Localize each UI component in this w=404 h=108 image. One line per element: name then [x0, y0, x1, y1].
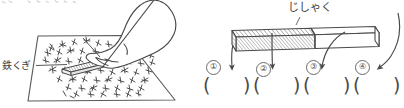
- marker-circle-3: ③: [306, 60, 321, 75]
- label-jishaku: じしゃく: [288, 2, 332, 13]
- answer-blank-1-open[interactable]: (: [203, 76, 210, 95]
- answer-blank-3-open[interactable]: (: [303, 76, 310, 95]
- worksheet-figure: 鉄くぎ じしゃく ① ② ③ ④ ( ) ( ) ( ) ( ): [0, 0, 404, 108]
- hand: [86, 0, 176, 68]
- answer-blank-4-close[interactable]: ): [393, 76, 400, 95]
- pointer-arrow-2: [272, 33, 273, 67]
- clipped-top-text: [2, 0, 76, 2]
- answer-blank-4-open[interactable]: (: [353, 76, 360, 95]
- marker-circle-1: ①: [206, 60, 221, 75]
- answer-blank-2-open[interactable]: (: [253, 76, 260, 95]
- answer-blank-1-close[interactable]: ): [243, 76, 250, 95]
- pointer-arrow-4: [379, 13, 400, 68]
- left-illustration: [28, 0, 176, 101]
- answer-blank-3-close[interactable]: ): [343, 76, 350, 95]
- jishaku-leader-line: [296, 17, 300, 25]
- label-tetsukugi: 鉄くぎ: [2, 61, 31, 71]
- pointer-arrow-1: [232, 45, 233, 68]
- marker-circle-4: ④: [355, 60, 370, 75]
- answer-blank-2-close[interactable]: ): [293, 76, 300, 95]
